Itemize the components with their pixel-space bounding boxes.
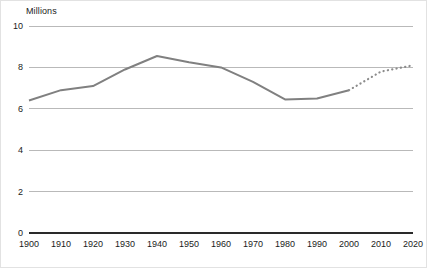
x-tick-label-1900: 1900 [19,239,39,249]
x-tick-label-1960: 1960 [211,239,231,249]
y-tick-label-6: 6 [1,104,23,114]
y-tick-label-2: 2 [1,187,23,197]
data-series [29,56,413,101]
gridlines [29,26,413,192]
x-tick-label-1940: 1940 [147,239,167,249]
series-line-observed [29,56,349,101]
population-line-chart: Millions 0246810 19001910192019301940195… [1,1,426,267]
y-tick-label-0: 0 [1,228,23,238]
x-tick-label-2010: 2010 [371,239,391,249]
y-tick-label-10: 10 [1,21,23,31]
x-tick-label-1910: 1910 [51,239,71,249]
series-line-projected [349,65,413,90]
x-tick-label-1970: 1970 [243,239,263,249]
x-tick-label-1930: 1930 [115,239,135,249]
y-tick-label-4: 4 [1,145,23,155]
chart-screenshot: Millions 0246810 19001910192019301940195… [0,0,427,268]
x-tick-label-1950: 1950 [179,239,199,249]
y-tick-label-8: 8 [1,62,23,72]
x-tick-label-1920: 1920 [83,239,103,249]
x-tick-label-1980: 1980 [275,239,295,249]
x-tick-label-2000: 2000 [339,239,359,249]
chart-plot-area [1,1,427,268]
x-tick-label-2020: 2020 [403,239,423,249]
x-tick-label-1990: 1990 [307,239,327,249]
